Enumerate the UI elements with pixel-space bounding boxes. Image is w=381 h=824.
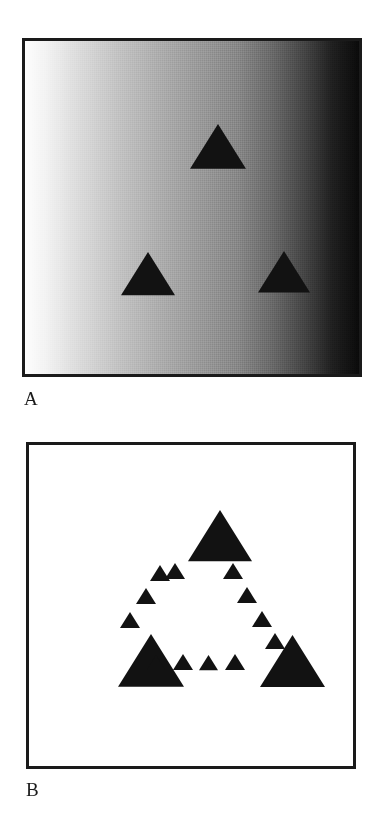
figure-root: A B <box>0 0 381 824</box>
triangle-small-left-3 <box>120 612 140 628</box>
triangle-bottom-right <box>258 251 310 293</box>
panel-a <box>22 38 362 377</box>
triangle-small-right-2 <box>237 587 257 603</box>
triangle-small-bottom-3 <box>199 655 218 670</box>
panel-b-label: B <box>26 780 39 799</box>
triangle-small-left-2 <box>136 588 156 604</box>
triangle-bottom-left <box>121 252 175 295</box>
triangle-small-bottom-2 <box>173 654 193 670</box>
panel-a-label: A <box>24 389 38 408</box>
triangle-small-right-3 <box>252 611 272 627</box>
triangle-top <box>190 124 246 169</box>
panel-b <box>26 442 356 769</box>
panel-b-shapes <box>26 442 356 769</box>
triangle-large-top <box>188 510 252 561</box>
triangle-large-bottom-left <box>118 634 184 687</box>
triangle-small-bottom-4 <box>225 654 245 670</box>
panel-a-shapes <box>22 38 362 377</box>
triangle-small-right-4 <box>265 633 285 649</box>
triangle-small-left-0 <box>165 563 185 579</box>
triangle-small-right-1 <box>223 563 243 579</box>
